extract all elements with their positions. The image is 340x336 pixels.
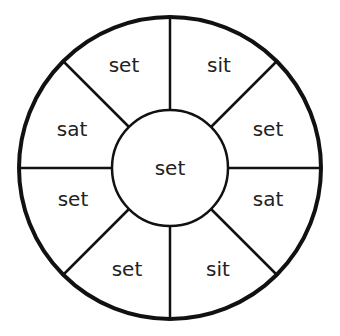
- center-word: set: [155, 156, 186, 180]
- segment-label: set: [112, 257, 143, 281]
- segment-label: sit: [207, 53, 231, 77]
- segment-label: sit: [206, 257, 230, 281]
- segment-label: set: [58, 187, 89, 211]
- segment-label: sat: [253, 187, 284, 211]
- word-wheel: set sit set sat sit set set sat set: [0, 0, 340, 336]
- segment-label: set: [109, 53, 140, 77]
- segment-label: sat: [57, 117, 88, 141]
- segment-label: set: [253, 117, 284, 141]
